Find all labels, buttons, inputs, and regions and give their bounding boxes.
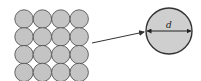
grid-circle (52, 63, 70, 81)
grid-circle (15, 10, 33, 28)
grid-circle (52, 10, 70, 28)
grid-circle (33, 28, 51, 46)
grid-circle (33, 10, 51, 28)
grid-circle (15, 28, 33, 46)
grid-circle (70, 45, 88, 63)
packing-diagram: d (0, 0, 201, 81)
grid-circle (33, 45, 51, 63)
grid-circle (70, 10, 88, 28)
circle-grid (15, 10, 89, 81)
diameter-label: d (166, 20, 172, 30)
detail-circle-group: d (146, 8, 192, 54)
grid-circle (70, 28, 88, 46)
grid-circle (15, 45, 33, 63)
grid-circle (52, 45, 70, 63)
grid-circle (15, 63, 33, 81)
pointer-arrow (92, 32, 144, 43)
grid-circle (70, 63, 88, 81)
grid-circle (52, 28, 70, 46)
grid-circle (33, 63, 51, 81)
